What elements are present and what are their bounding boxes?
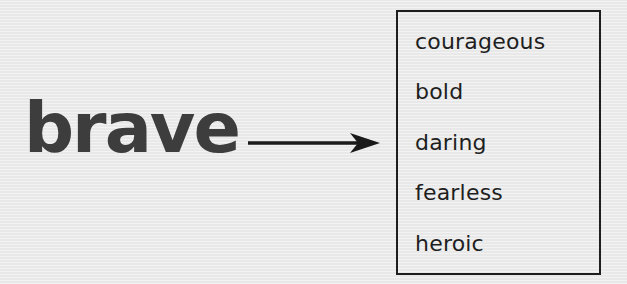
synonym-item: daring <box>415 129 487 157</box>
headword: brave <box>24 88 239 168</box>
synonym-item: bold <box>415 78 463 106</box>
synonym-item: heroic <box>415 230 484 258</box>
synonym-item: courageous <box>415 28 545 56</box>
right-arrow-icon <box>246 130 382 156</box>
synonyms-box: courageous bold daring fearless heroic <box>396 10 601 275</box>
synonym-item: fearless <box>415 179 503 207</box>
